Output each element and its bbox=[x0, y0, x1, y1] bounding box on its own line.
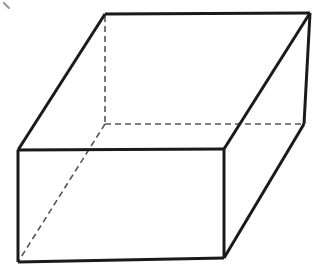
top-back-edge bbox=[105, 13, 310, 14]
prism-front-face bbox=[18, 149, 224, 262]
figure-canvas bbox=[0, 0, 319, 268]
rectangular-prism-diagram bbox=[0, 0, 319, 268]
front-top-edge bbox=[18, 149, 224, 150]
